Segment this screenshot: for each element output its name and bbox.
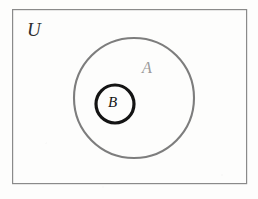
set-b-label: B <box>108 95 117 110</box>
universe-label: U <box>27 20 41 39</box>
venn-diagram-figure: U A B <box>0 0 258 199</box>
set-a-label: A <box>142 60 152 76</box>
